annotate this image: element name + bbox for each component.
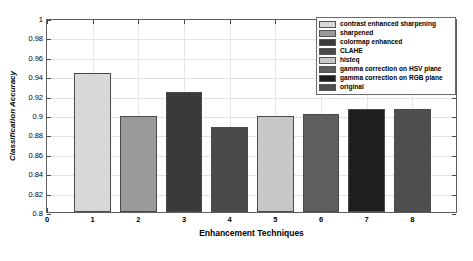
- y-tick-label: 0.92: [28, 94, 43, 102]
- y-tickmark: [452, 214, 456, 215]
- legend-swatch: [319, 66, 336, 73]
- legend-swatch: [319, 75, 336, 82]
- bar: [257, 116, 294, 212]
- y-tick-label: 0.86: [28, 152, 43, 160]
- legend-label: CLAHE: [340, 48, 363, 55]
- x-tick-label: 7: [365, 216, 369, 224]
- legend-item: sharpened: [319, 29, 452, 38]
- y-tick-label: 0.8: [33, 210, 43, 218]
- x-tick-label: 2: [136, 216, 140, 224]
- legend-item: CLAHE: [319, 47, 452, 56]
- y-tick-label: 0.9: [33, 113, 43, 121]
- y-tick-label: 0.94: [28, 74, 43, 82]
- x-tick-label: 5: [273, 216, 277, 224]
- bar: [394, 109, 431, 212]
- bar: [348, 109, 385, 212]
- legend-label: original: [340, 84, 364, 91]
- legend-label: histeq: [340, 57, 359, 64]
- y-tick-label: 0.84: [28, 171, 43, 179]
- bar: [211, 127, 248, 212]
- x-axis-label: Enhancement Techniques: [46, 228, 457, 238]
- bar: [166, 92, 203, 212]
- y-axis-label-wrap: Classification Accuracy: [10, 0, 11, 232]
- legend-swatch: [319, 57, 336, 64]
- x-tick-label: 6: [319, 216, 323, 224]
- legend-label: gamma correction on HSV plane: [340, 66, 442, 73]
- legend-item: histeq: [319, 56, 452, 65]
- legend-label: colormap enhanced: [340, 39, 402, 46]
- legend-swatch: [319, 30, 336, 37]
- bar: [74, 73, 111, 212]
- y-tick-label: 0.98: [28, 36, 43, 44]
- legend-swatch: [319, 21, 336, 28]
- legend-item: gamma correction on RGB plane: [319, 74, 452, 83]
- y-axis-label: Classification Accuracy: [8, 71, 17, 161]
- y-tick-label: 1: [39, 16, 43, 24]
- legend-swatch: [319, 48, 336, 55]
- y-tick-label: 0.88: [28, 133, 43, 141]
- legend-swatch: [319, 84, 336, 91]
- x-tick-label: 4: [228, 216, 232, 224]
- y-tick-label: 0.82: [28, 191, 43, 199]
- legend-item: original: [319, 83, 452, 92]
- y-tick-label: 0.96: [28, 55, 43, 63]
- legend-swatch: [319, 39, 336, 46]
- legend-label: sharpened: [340, 30, 373, 37]
- x-tick-label: 1: [91, 216, 95, 224]
- legend-label: contrast enhanced sharpening: [340, 21, 436, 28]
- x-tick-label: 3: [182, 216, 186, 224]
- legend-item: contrast enhanced sharpening: [319, 20, 452, 29]
- bar: [303, 114, 340, 212]
- bar-chart-figure: Classification Accuracy 0.80.820.840.860…: [0, 0, 473, 261]
- legend-label: gamma correction on RGB plane: [340, 75, 443, 82]
- x-tick-label: 8: [410, 216, 414, 224]
- legend-item: gamma correction on HSV plane: [319, 65, 452, 74]
- bar: [120, 116, 157, 212]
- x-tick-label: 0: [45, 216, 49, 224]
- legend: contrast enhanced sharpeningsharpenedcol…: [316, 17, 456, 95]
- legend-item: colormap enhanced: [319, 38, 452, 47]
